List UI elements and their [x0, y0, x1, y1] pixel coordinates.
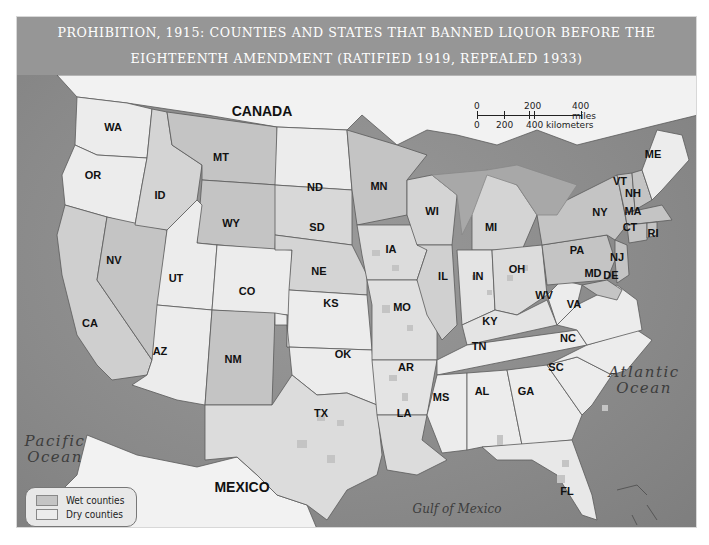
state-label-ga: GA [518, 385, 535, 397]
country-label-mexico: MEXICO [214, 479, 269, 495]
state-label-va: VA [567, 298, 581, 310]
state-label-sd: SD [309, 221, 324, 233]
state-label-ms: MS [433, 391, 450, 403]
state-label-mo: MO [393, 301, 411, 313]
map-title-line-1: PROHIBITION, 1915: COUNTIES AND STATES T… [57, 20, 655, 46]
scale-bar: 0 200 400 miles 0 200 400 kilometers [474, 101, 614, 133]
map-title: PROHIBITION, 1915: COUNTIES AND STATES T… [57, 20, 655, 72]
wet-swatch-icon [36, 495, 58, 506]
state-label-me: ME [645, 148, 662, 160]
state-label-wa: WA [104, 121, 122, 133]
us-map-shapes [17, 75, 697, 528]
country-label-canada: CANADA [232, 103, 293, 119]
state-label-mt: MT [213, 151, 229, 163]
state-label-nc: NC [560, 332, 576, 344]
state-label-id: ID [155, 189, 166, 201]
state-label-md: MD [584, 267, 601, 279]
state-label-ca: CA [82, 317, 98, 329]
state-label-nd: ND [307, 181, 323, 193]
state-label-nj: NJ [610, 251, 624, 263]
legend-item-dry: Dry counties [36, 507, 136, 521]
state-label-wi: WI [425, 205, 438, 217]
state-wy [197, 180, 277, 250]
map-frame: PROHIBITION, 1915: COUNTIES AND STATES T… [16, 16, 697, 528]
state-label-az: AZ [153, 345, 168, 357]
state-label-in: IN [473, 270, 484, 282]
state-label-ar: AR [398, 361, 414, 373]
atlantic-ocean-label: AtlanticOcean [608, 364, 679, 396]
state-label-nm: NM [224, 353, 241, 365]
state-label-ky: KY [482, 315, 497, 327]
state-label-fl: FL [560, 485, 573, 497]
map-title-line-2: EIGHTEENTH AMENDMENT (RATIFIED 1919, REP… [57, 46, 655, 72]
state-ms [427, 373, 467, 453]
state-label-il: IL [438, 270, 448, 282]
state-label-tx: TX [314, 407, 328, 419]
state-label-wy: WY [222, 217, 240, 229]
state-sd [275, 185, 352, 245]
state-label-mi: MI [485, 221, 497, 233]
state-label-wv: WV [535, 289, 553, 301]
map-legend: Wet counties Dry counties [25, 487, 137, 527]
state-co [212, 245, 292, 315]
state-label-de: DE [603, 269, 618, 281]
state-label-ks: KS [323, 297, 338, 309]
state-label-ok: OK [335, 348, 352, 360]
state-label-ny: NY [592, 206, 607, 218]
state-label-or: OR [85, 169, 102, 181]
pacific-ocean-label: PacificOcean [25, 433, 86, 465]
state-label-ri: RI [648, 227, 659, 239]
state-label-nv: NV [106, 254, 121, 266]
legend-item-wet: Wet counties [36, 493, 136, 507]
state-label-pa: PA [570, 244, 584, 256]
state-label-al: AL [475, 385, 490, 397]
state-label-ct: CT [623, 221, 638, 233]
state-me [642, 130, 689, 200]
state-label-sc: SC [548, 361, 563, 373]
state-label-tn: TN [472, 340, 487, 352]
state-label-vt: VT [613, 175, 627, 187]
state-label-mn: MN [370, 180, 387, 192]
state-label-nh: NH [625, 187, 641, 199]
state-label-la: LA [397, 407, 412, 419]
map-title-bar: PROHIBITION, 1915: COUNTIES AND STATES T… [17, 17, 696, 75]
state-label-ut: UT [169, 272, 184, 284]
state-label-ma: MA [624, 205, 641, 217]
state-label-ne: NE [311, 265, 326, 277]
gulf-of-mexico-label: Gulf of Mexico [413, 501, 502, 517]
dry-swatch-icon [36, 509, 58, 520]
state-label-co: CO [239, 285, 256, 297]
state-label-oh: OH [509, 263, 526, 275]
state-label-ia: IA [386, 243, 397, 255]
